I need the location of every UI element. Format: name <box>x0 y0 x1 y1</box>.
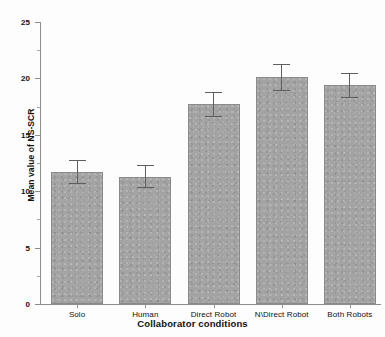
y-tick-label-25: 25 <box>21 18 30 27</box>
error-bar <box>51 160 103 185</box>
y-tick-label-5: 5 <box>26 243 30 252</box>
bar <box>51 172 103 304</box>
y-minor-tick-22.5 <box>37 50 40 51</box>
error-bar-stem <box>349 73 350 98</box>
bar-chart-figure: Mean value of NS-SCR 0510152025 SoloHuma… <box>0 0 385 337</box>
error-bar <box>119 165 171 188</box>
error-bar-cap-bottom <box>69 183 86 184</box>
y-tick-label-0: 0 <box>26 300 30 309</box>
error-bar-stem <box>281 64 282 91</box>
error-bar-stem <box>213 92 214 117</box>
bar <box>188 104 240 304</box>
error-bar-cap-bottom <box>341 97 358 98</box>
y-minor-tick-7.5 <box>37 219 40 220</box>
y-tick-0 <box>35 304 40 305</box>
y-minor-tick-17.5 <box>37 107 40 108</box>
y-tick-20 <box>35 78 40 79</box>
x-tick-2 <box>214 304 215 308</box>
y-tick-label-15: 15 <box>21 130 30 139</box>
x-tick-1 <box>145 304 146 308</box>
y-tick-15 <box>35 135 40 136</box>
error-bar <box>188 92 240 117</box>
error-bar-cap-bottom <box>273 90 290 91</box>
error-bar-cap-bottom <box>137 187 154 188</box>
plot-area: 0510152025 SoloHumanDirect RobotN\Direct… <box>40 22 381 304</box>
bar <box>324 85 376 304</box>
error-bar-stem <box>145 165 146 188</box>
bar <box>256 77 308 304</box>
x-tick-0 <box>77 304 78 308</box>
y-axis-line <box>40 22 41 305</box>
y-tick-label-10: 10 <box>21 187 30 196</box>
y-minor-tick-12.5 <box>37 163 40 164</box>
x-axis-title: Collaborator conditions <box>0 318 385 329</box>
error-bar-stem <box>77 160 78 185</box>
bar <box>119 177 171 304</box>
y-minor-tick-2.5 <box>37 276 40 277</box>
error-bar-cap-bottom <box>205 116 222 117</box>
y-axis-title: Mean value of NS-SCR <box>26 75 36 235</box>
y-tick-5 <box>35 248 40 249</box>
x-tick-4 <box>350 304 351 308</box>
x-axis-line <box>40 304 381 305</box>
y-tick-10 <box>35 191 40 192</box>
x-tick-3 <box>282 304 283 308</box>
error-bar <box>256 64 308 91</box>
y-tick-25 <box>35 22 40 23</box>
error-bar <box>324 73 376 98</box>
y-tick-label-20: 20 <box>21 74 30 83</box>
